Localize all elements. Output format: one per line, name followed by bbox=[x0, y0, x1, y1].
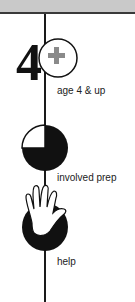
age-4-plus-icon: 4 bbox=[14, 28, 84, 86]
header-bar bbox=[0, 0, 135, 12]
step-label-help: help bbox=[57, 256, 76, 267]
svg-text:4: 4 bbox=[16, 34, 42, 86]
hand-help-icon bbox=[18, 183, 78, 251]
header-divider bbox=[0, 12, 135, 14]
step-label-involved-prep: involved prep bbox=[57, 172, 116, 183]
three-quarter-pie-icon bbox=[21, 124, 71, 174]
step-label-age: age 4 & up bbox=[57, 85, 105, 96]
